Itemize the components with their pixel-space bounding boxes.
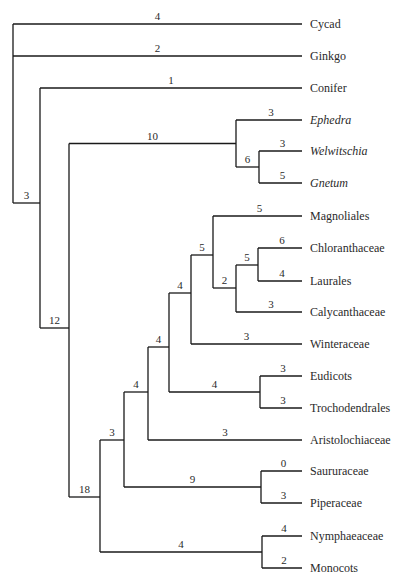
taxon-labels: CycadGinkgoConiferEphedraWelwitschiaGnet… [309, 17, 391, 575]
branch-length-ang-b: 4 [133, 378, 139, 390]
taxon-label-calycanthaceae: Calycanthaceae [310, 305, 385, 319]
branch-length-piperales: 9 [190, 473, 196, 485]
branch-length-conifer-angio-gnet: 3 [24, 189, 30, 201]
taxon-label-conifer: Conifer [310, 81, 347, 95]
taxon-label-nymphaeaceae: Nymphaeaceae [310, 529, 383, 543]
branch-length-trochodendrales: 3 [280, 394, 286, 406]
branch-length-ang-c: 4 [156, 333, 162, 345]
branch-length-magnoliales: 5 [257, 202, 263, 214]
taxon-label-eudicots: Eudicots [310, 369, 352, 383]
branch-length-saururaceae: 0 [281, 457, 287, 469]
phylogenetic-tree: 423112103635183444552564334333903442 Cyc… [0, 0, 396, 584]
branch-length-piperaceae: 3 [281, 489, 287, 501]
taxon-label-trochodendrales: Trochodendrales [310, 401, 391, 415]
branch-length-conifer: 1 [168, 74, 174, 86]
branch-length-ginkgo: 2 [155, 42, 161, 54]
taxon-label-winteraceae: Winteraceae [310, 337, 369, 351]
branch-length-laurales: 4 [279, 267, 285, 279]
branch-length-eudicots: 3 [280, 362, 286, 374]
taxon-label-saururaceae: Saururaceae [310, 464, 369, 478]
branch-length-nymph-mono: 4 [178, 538, 184, 550]
branch-length-winteraceae: 3 [244, 330, 250, 342]
taxon-label-gnetum: Gnetum [310, 176, 348, 190]
branch-length-chlor-laur: 5 [244, 251, 250, 263]
taxon-label-magnoliales: Magnoliales [310, 209, 370, 223]
branch-length-ang-a: 3 [109, 426, 115, 438]
branch-length-angiosperms: 18 [79, 483, 91, 495]
taxon-label-piperaceae: Piperaceae [310, 496, 362, 510]
branch-length-gnet-angio: 12 [49, 314, 60, 326]
taxon-label-welwitschia: Welwitschia [310, 144, 368, 158]
branch-length-ephedra: 3 [268, 106, 274, 118]
taxon-label-laurales: Laurales [310, 274, 352, 288]
branch-length-gnetales: 10 [147, 130, 159, 142]
branch-length-monocots: 2 [281, 554, 287, 566]
taxon-label-monocots: Monocots [310, 561, 358, 575]
taxon-label-chloranthaceae: Chloranthaceae [310, 241, 385, 255]
branch-length-labels: 423112103635183444552564334333903442 [24, 10, 288, 566]
branch-length-calycanthaceae: 3 [268, 298, 274, 310]
branch-length-magnoliids: 4 [177, 279, 183, 291]
branch-length-mag-a: 5 [199, 241, 205, 253]
branch-length-aristolochiaceae: 3 [222, 426, 228, 438]
taxon-label-ginkgo: Ginkgo [310, 49, 346, 63]
branch-length-eud-troch: 4 [212, 378, 218, 390]
taxon-label-cycad: Cycad [310, 17, 341, 31]
tree-branches [13, 24, 302, 568]
branch-length-gnetum: 5 [280, 169, 286, 181]
branch-length-laurales-grp: 2 [222, 274, 228, 286]
branch-length-welwitschia: 3 [280, 137, 286, 149]
branch-length-chloranthaceae: 6 [279, 234, 285, 246]
branch-length-welw-gnetum: 6 [245, 153, 251, 165]
branch-length-cycad: 4 [155, 10, 161, 22]
taxon-label-ephedra: Ephedra [309, 113, 351, 127]
taxon-label-aristolochiaceae: Aristolochiaceae [310, 433, 391, 447]
branch-length-nymphaeaceae: 4 [281, 522, 287, 534]
